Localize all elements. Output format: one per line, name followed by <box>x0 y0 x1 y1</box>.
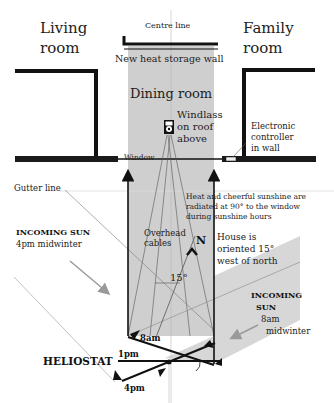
sun-8am-title: INCOMING <box>251 290 302 300</box>
svg-text:oriented 15°: oriented 15° <box>217 244 274 254</box>
living-room-label: Living <box>40 19 88 37</box>
heliostat-pivot <box>167 360 172 365</box>
heat-wall-label: New heat storage wall <box>115 53 224 64</box>
sun-4pm-arrow <box>70 261 108 293</box>
windlass-label: Windlass <box>177 109 223 120</box>
svg-text:west of north: west of north <box>217 256 278 266</box>
svg-text:midwinter: midwinter <box>266 326 311 336</box>
time-4pm-label: 4pm <box>124 383 145 393</box>
svg-text:on roof: on roof <box>177 121 214 132</box>
sun-8am-sub: 8am <box>261 314 280 324</box>
svg-text:cables: cables <box>144 238 171 248</box>
wall-left <box>15 156 118 162</box>
centre-line-label: Centre line <box>145 21 191 30</box>
svg-text:controller: controller <box>251 132 294 142</box>
heliostat-diagram: Living room Family room Dining room Cent… <box>0 0 334 403</box>
sun-4pm-title: INCOMING SUN <box>16 227 90 237</box>
heliostat-label: HELIOSTAT <box>43 355 113 367</box>
gutter-label: Gutter line <box>14 183 61 193</box>
cables-label: Overhead <box>144 228 186 238</box>
svg-text:room: room <box>243 39 282 57</box>
sun-4pm-sub: 4pm midwinter <box>16 239 83 249</box>
svg-text:in wall: in wall <box>251 143 280 153</box>
family-room-wall <box>244 70 315 103</box>
time-8am-label: 8am <box>140 333 160 343</box>
dining-room-label: Dining room <box>130 86 212 101</box>
svg-text:SUN: SUN <box>256 302 276 312</box>
time-1pm-label: 1pm <box>118 349 139 359</box>
window-label: Window <box>124 153 155 162</box>
family-room-label: Family <box>243 19 294 37</box>
angle-label: 15° <box>170 272 188 283</box>
living-room-wall <box>15 71 96 157</box>
svg-text:above: above <box>177 133 207 144</box>
svg-text:radiated at 90° to the window: radiated at 90° to the window <box>186 202 300 211</box>
svg-text:during sunshine hours: during sunshine hours <box>186 212 272 221</box>
controller-box <box>226 157 236 161</box>
svg-text:room: room <box>40 39 79 57</box>
radiated-note: Heat and cheerful sunshine are <box>186 192 307 201</box>
controller-label: Electronic <box>251 121 296 131</box>
north-label: N <box>196 234 206 247</box>
orientation-label: House is <box>217 232 257 242</box>
